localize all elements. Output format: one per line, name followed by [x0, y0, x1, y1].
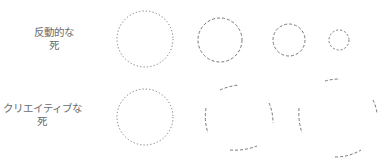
death-diagram: [0, 0, 378, 165]
arc-top: [325, 79, 340, 81]
arc-right: [269, 103, 273, 123]
circle-medium-dashed: [198, 18, 242, 62]
fragmented-circle-1: [205, 85, 273, 150]
arc-top: [220, 85, 239, 90]
circle-tiny-dashed: [329, 30, 349, 50]
arc-left: [299, 108, 302, 133]
circle-large-dotted: [117, 11, 173, 67]
arc-right: [373, 100, 377, 113]
arc-left: [205, 108, 208, 133]
arc-bottom: [230, 146, 257, 150]
circle-large-dotted: [117, 89, 173, 145]
row1-shrinking-circles: [117, 11, 349, 67]
fragmented-circle-2: [299, 79, 377, 157]
circle-small-dashed: [273, 24, 305, 56]
arc-bottom: [335, 150, 361, 157]
row2-expanding-arcs: [117, 79, 377, 157]
